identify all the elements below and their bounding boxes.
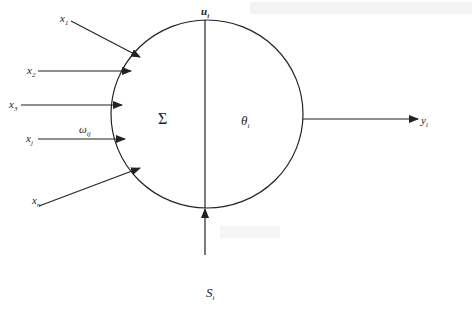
neuron-diagram: x1 x2 x3 xj xn ωij Σ θi ui yi Si [0, 0, 472, 310]
label-xn: xn [31, 194, 41, 209]
label-x2: x2 [26, 64, 36, 79]
label-x1: x1 [59, 12, 68, 27]
background-ghost-text [220, 2, 472, 238]
label-xj: xj [25, 132, 33, 147]
neuron-circle [111, 20, 303, 208]
label-x3: x3 [8, 98, 18, 113]
label-output: yi [420, 114, 428, 129]
label-threshold: θi [241, 113, 249, 130]
label-weight: ωij [79, 123, 91, 138]
input-arrow-xn [39, 168, 140, 206]
label-external-input: Si [206, 285, 215, 302]
input-arrow-x1 [71, 21, 140, 57]
label-state: ui [201, 5, 209, 20]
label-summation: Σ [158, 110, 167, 127]
